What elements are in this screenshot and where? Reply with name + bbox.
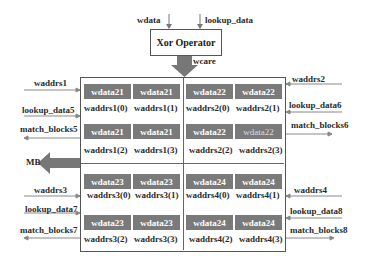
addr-q1-3: waddrs1(3) (134, 145, 178, 155)
center-divider-horizontal (81, 163, 284, 164)
cell-q4-1: wdata24 (235, 174, 282, 189)
cell-q4-3: wdata24 (235, 215, 282, 230)
wdata-input-arrow (166, 14, 172, 29)
lookup-data7-label: lookup_data7 (25, 204, 78, 214)
cell-q2-2: wdata22 (186, 124, 233, 139)
cell-q2-3: wdata22 (235, 124, 282, 139)
waddrs2-label: waddrs2 (292, 74, 325, 84)
match-blocks5-label: match_blocks5 (20, 124, 78, 134)
mb-output-arrow (38, 152, 80, 174)
match-blocks7-label: match_blocks7 (20, 225, 78, 235)
waddrs4-label: waddrs4 (294, 185, 327, 195)
waddrs1-label: waddrs1 (34, 78, 67, 88)
mb-label: MB (26, 157, 41, 167)
waddrs3-label: waddrs3 (34, 185, 67, 195)
cell-q3-1: wdata23 (133, 174, 180, 189)
addr-q2-0: waddrs2(0) (186, 103, 230, 113)
cell-q3-0: wdata23 (84, 174, 131, 189)
cell-q2-0: wdata22 (186, 84, 233, 99)
cell-q1-3: wdata21 (133, 124, 180, 139)
lookup-data5-label: lookup_data5 (22, 105, 75, 115)
xor-operator-block: Xor Operator (150, 29, 222, 56)
lookup-data-input-arrow (197, 14, 203, 29)
addr-q1-0: waddrs1(0) (84, 103, 128, 113)
match-blocks8-label: match_blocks8 (290, 225, 348, 235)
lookup-data8-label: lookup_data8 (290, 206, 343, 216)
lookup-data6-label: lookup_data6 (289, 100, 342, 110)
addr-q1-2: waddrs1(2) (84, 145, 128, 155)
addr-q4-3: waddrs4(3) (239, 234, 283, 244)
addr-q2-2: waddrs2(2) (189, 145, 233, 155)
wdata-label: wdata (137, 15, 161, 25)
addr-q4-1: waddrs4(1) (236, 190, 280, 200)
cell-q2-1: wdata22 (235, 84, 282, 99)
cell-q1-2: wdata21 (84, 124, 131, 139)
cell-q4-0: wdata24 (186, 174, 233, 189)
cell-q3-2: wdata23 (84, 215, 131, 230)
addr-q3-1: waddrs3(1) (135, 190, 179, 200)
wcare-label: wcare (193, 56, 216, 66)
addr-q2-1: waddrs2(1) (236, 103, 280, 113)
cell-q1-0: wdata21 (84, 84, 131, 99)
memory-array: wdata21 wdata21 waddrs1(0) waddrs1(1) wd… (80, 77, 286, 252)
addr-q3-3: waddrs3(3) (134, 234, 178, 244)
lookup-data-label: lookup_data (205, 15, 253, 25)
addr-q4-2: waddrs4(2) (189, 234, 233, 244)
addr-q2-3: waddrs2(3) (239, 145, 283, 155)
addr-q3-0: waddrs3(0) (87, 190, 131, 200)
cell-q4-2: wdata24 (186, 215, 233, 230)
addr-q4-0: waddrs4(0) (186, 190, 230, 200)
center-divider-vertical (183, 78, 184, 250)
cell-q1-1: wdata21 (133, 84, 180, 99)
addr-q3-2: waddrs3(2) (84, 234, 128, 244)
cell-q3-3: wdata23 (133, 215, 180, 230)
match-blocks6-label: match_blocks6 (291, 120, 349, 130)
addr-q1-1: waddrs1(1) (134, 103, 178, 113)
